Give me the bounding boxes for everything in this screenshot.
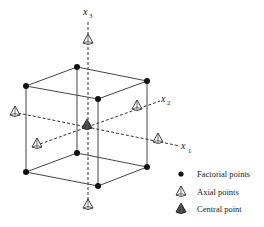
svg-text:x: x [180, 140, 186, 151]
factorial-point-icon [178, 171, 183, 176]
axial-point-icon [10, 106, 20, 117]
svg-text:Central point: Central point [197, 204, 242, 214]
axial-point-icon [153, 133, 163, 144]
axial-point-icon [32, 138, 42, 149]
axial-point-icon [132, 100, 142, 111]
factorial-point-icon [23, 83, 29, 89]
central-point-icon [176, 203, 186, 214]
factorial-point-icon [74, 150, 80, 156]
factorial-point-icon [144, 78, 150, 84]
axis-label-x3: x 3 [82, 6, 93, 20]
factorial-point-icon [95, 96, 101, 102]
central-point-icon [82, 119, 92, 130]
factorial-point-icon [144, 164, 150, 170]
svg-text:x: x [82, 6, 88, 17]
legend-item-central: Central point [176, 203, 242, 214]
svg-text:Axial points: Axial points [197, 187, 239, 197]
axial-point-icon [83, 199, 93, 210]
factorial-point-icon [95, 183, 101, 189]
axis-label-x2: x 2 [160, 93, 171, 107]
svg-text:x: x [160, 93, 166, 104]
x2-axis [40, 101, 160, 144]
axial-point-icon [83, 34, 93, 45]
factorial-point-icon [23, 169, 29, 175]
svg-text:1: 1 [188, 147, 192, 155]
svg-text:Factorial points: Factorial points [197, 169, 250, 179]
legend: Factorial points Axial points Central po… [176, 169, 250, 214]
axial-point-icon [176, 186, 186, 197]
ccd-diagram: x 3 x 2 x 1 Factorial points Axial point… [0, 0, 264, 227]
legend-item-axial: Axial points [176, 186, 239, 197]
legend-item-factorial: Factorial points [178, 169, 250, 179]
svg-text:3: 3 [89, 12, 93, 20]
svg-text:2: 2 [167, 99, 171, 107]
axis-label-x1: x 1 [180, 140, 192, 155]
factorial-point-icon [74, 64, 80, 70]
